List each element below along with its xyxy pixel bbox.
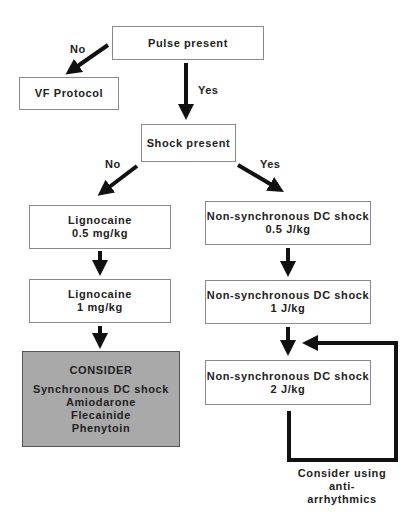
node-label: Shock present	[147, 137, 231, 150]
node-line1: Non-synchronous DC shock	[207, 289, 369, 302]
edge-label-pulse-no: No	[70, 43, 86, 55]
node-line1: Lignocaine	[68, 288, 132, 301]
node-vf-protocol: VF Protocol	[19, 77, 119, 110]
node-line2: 0.5 J/kg	[265, 223, 310, 236]
note-line2: anti-arrhythmics	[296, 480, 388, 506]
node-line1: Non-synchronous DC shock	[207, 370, 369, 383]
consider-item: Flecainide	[71, 409, 131, 422]
consider-title: CONSIDER	[70, 364, 133, 377]
node-pulse-present: Pulse present	[112, 26, 264, 60]
node-line2: 0.5 mg/kg	[72, 227, 128, 240]
node-dc-shock-0-5: Non-synchronous DC shock 0.5 J/kg	[205, 201, 371, 245]
node-dc-shock-1: Non-synchronous DC shock 1 J/kg	[205, 280, 371, 324]
note-line1: Consider using	[296, 467, 388, 480]
node-lignocaine-1: Lignocaine 1 mg/kg	[29, 279, 171, 323]
node-dc-shock-2: Non-synchronous DC shock 2 J/kg	[205, 360, 371, 405]
node-shock-present: Shock present	[141, 124, 236, 162]
node-label: VF Protocol	[35, 87, 103, 100]
node-line2: 1 mg/kg	[77, 301, 123, 314]
node-line1: Non-synchronous DC shock	[207, 210, 369, 223]
node-lignocaine-0-5: Lignocaine 0.5 mg/kg	[29, 205, 171, 249]
node-line2: 2 J/kg	[271, 383, 306, 396]
node-consider: CONSIDER Synchronous DC shock Amiodarone…	[22, 351, 180, 447]
edge-label-shock-no: No	[105, 158, 121, 170]
loop-note: Consider using anti-arrhythmics	[296, 467, 388, 506]
edge-label-shock-yes: Yes	[260, 158, 280, 170]
consider-item: Amiodarone	[66, 396, 136, 409]
consider-item: Phenytoin	[72, 422, 131, 435]
node-label: Pulse present	[148, 37, 228, 50]
node-line1: Lignocaine	[68, 214, 132, 227]
node-line2: 1 J/kg	[271, 302, 306, 315]
consider-item: Synchronous DC shock	[33, 383, 169, 396]
edge-label-pulse-yes: Yes	[198, 84, 218, 96]
